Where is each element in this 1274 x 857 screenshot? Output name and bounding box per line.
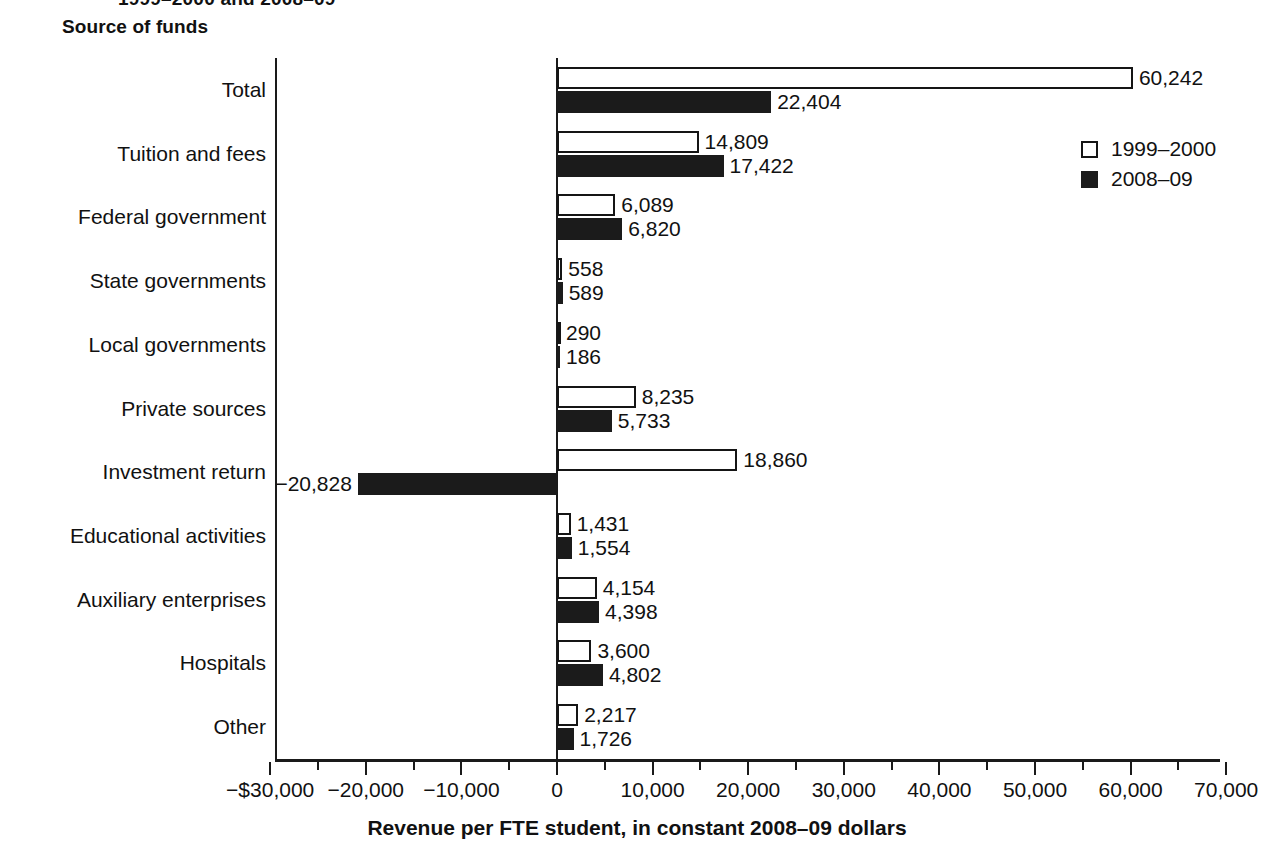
- legend-item: 2008–09: [1081, 164, 1216, 194]
- bar-value-label: 2,217: [584, 703, 637, 727]
- bar-value-label: 8,235: [642, 385, 695, 409]
- axis-tick-major: [269, 762, 271, 775]
- legend-item-label: 2008–09: [1111, 167, 1193, 191]
- bar-series-1999-2000: [557, 640, 591, 662]
- bar-series-1999-2000: [557, 449, 737, 471]
- category-label: Investment return: [103, 460, 266, 484]
- axis-tick-label: −$30,000: [226, 778, 314, 802]
- axis-tick-major: [556, 762, 558, 775]
- bar-value-label: 4,154: [603, 576, 656, 600]
- bar-series-1999-2000: [557, 386, 636, 408]
- category-label: Other: [213, 715, 266, 739]
- axis-tick-major: [1225, 762, 1227, 775]
- bar-value-label: 14,809: [705, 130, 769, 154]
- axis-tick-label: 60,000: [1098, 778, 1162, 802]
- axis-tick-major: [747, 762, 749, 775]
- category-axis-line: [275, 58, 277, 760]
- legend-swatch-hollow-square-icon: [1081, 141, 1098, 158]
- bar-value-label: 6,820: [628, 217, 681, 241]
- bar-series-2008-09: [557, 218, 622, 240]
- axis-tick-label: 10,000: [620, 778, 684, 802]
- bar-series-1999-2000: [557, 258, 562, 280]
- category-label: Local governments: [89, 333, 266, 357]
- bar-series-2008-09: [557, 155, 724, 177]
- axis-tick-minor: [1177, 762, 1179, 770]
- bar-value-label: 4,398: [605, 600, 658, 624]
- bar-series-1999-2000: [557, 67, 1133, 89]
- axis-tick-major: [365, 762, 367, 775]
- axis-tick-minor: [413, 762, 415, 770]
- bar-value-label: 290: [566, 321, 601, 345]
- bar-series-1999-2000: [557, 322, 561, 344]
- legend-item-label: 1999–2000: [1111, 137, 1216, 161]
- x-axis-title: Revenue per FTE student, in constant 200…: [0, 816, 1274, 840]
- bar-series-1999-2000: [557, 194, 615, 216]
- bar-series-2008-09: [557, 91, 771, 113]
- axis-tick-minor: [604, 762, 606, 770]
- bar-value-label: 1,726: [580, 727, 633, 751]
- bar-series-2008-09: [557, 282, 563, 304]
- axis-tick-minor: [1082, 762, 1084, 770]
- category-label: Total: [222, 78, 266, 102]
- bar-value-label: 1,431: [577, 512, 630, 536]
- bar-value-label: 5,733: [618, 409, 671, 433]
- chart-legend: 1999–2000 2008–09: [1081, 134, 1216, 194]
- axis-tick-label: 0: [551, 778, 563, 802]
- axis-tick-minor: [986, 762, 988, 770]
- legend-item: 1999–2000: [1081, 134, 1216, 164]
- axis-tick-label: −20,000: [328, 778, 405, 802]
- bar-value-label: 3,600: [597, 639, 650, 663]
- bar-value-label: 18,860: [743, 448, 807, 472]
- bar-series-1999-2000: [557, 513, 571, 535]
- axis-tick-major: [1034, 762, 1036, 775]
- axis-tick-minor: [508, 762, 510, 770]
- axis-tick-major: [460, 762, 462, 775]
- bar-value-label: −20,828: [275, 472, 352, 496]
- bar-chart-plot-area: −$30,000−20,000−10,000010,00020,00030,00…: [0, 0, 1274, 857]
- bar-value-label: 60,242: [1139, 66, 1203, 90]
- category-label: State governments: [90, 269, 266, 293]
- axis-tick-label: 50,000: [1003, 778, 1067, 802]
- axis-tick-label: −10,000: [423, 778, 500, 802]
- bar-value-label: 558: [568, 257, 603, 281]
- axis-tick-major: [1130, 762, 1132, 775]
- axis-tick-label: 30,000: [812, 778, 876, 802]
- category-label: Auxiliary enterprises: [77, 588, 266, 612]
- axis-tick-minor: [317, 762, 319, 770]
- bar-value-label: 4,802: [609, 663, 662, 687]
- axis-tick-minor: [699, 762, 701, 770]
- bar-series-2008-09: [557, 410, 612, 432]
- category-label: Tuition and fees: [117, 142, 266, 166]
- bar-series-1999-2000: [557, 704, 578, 726]
- bar-value-label: 22,404: [777, 90, 841, 114]
- bar-value-label: 186: [566, 345, 601, 369]
- bar-value-label: 17,422: [730, 154, 794, 178]
- category-label: Educational activities: [70, 524, 266, 548]
- axis-tick-major: [652, 762, 654, 775]
- axis-tick-minor: [891, 762, 893, 770]
- category-label: Federal government: [78, 205, 266, 229]
- bar-value-label: 589: [569, 281, 604, 305]
- axis-tick-label: 70,000: [1194, 778, 1258, 802]
- bar-value-label: 6,089: [621, 193, 674, 217]
- axis-tick-minor: [795, 762, 797, 770]
- bar-series-2008-09: [557, 728, 574, 750]
- axis-tick-label: 40,000: [907, 778, 971, 802]
- bar-series-2008-09: [557, 346, 560, 368]
- axis-tick-major: [843, 762, 845, 775]
- axis-tick-label: 20,000: [716, 778, 780, 802]
- bar-series-2008-09: [557, 601, 599, 623]
- bar-series-2008-09: [557, 664, 603, 686]
- bar-value-label: 1,554: [578, 536, 631, 560]
- legend-swatch-filled-square-icon: [1081, 171, 1098, 188]
- bar-series-2008-09: [557, 537, 572, 559]
- category-label: Hospitals: [180, 651, 266, 675]
- bar-series-1999-2000: [557, 577, 597, 599]
- axis-tick-major: [938, 762, 940, 775]
- chart-page: 1999–2000 and 2008–09 Source of funds −$…: [0, 0, 1274, 857]
- category-label: Private sources: [121, 397, 266, 421]
- bar-series-1999-2000: [557, 131, 699, 153]
- bar-series-2008-09: [358, 473, 557, 495]
